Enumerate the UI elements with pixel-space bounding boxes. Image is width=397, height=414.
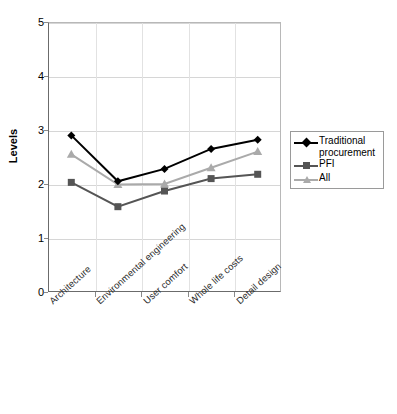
y-tick-label: 2 (22, 179, 44, 190)
data-point-marker (67, 150, 76, 158)
legend-label: Traditional procurement (318, 135, 381, 158)
legend-swatch (294, 136, 318, 149)
legend-item[interactable]: PFI (294, 158, 381, 172)
data-point-marker (161, 165, 169, 173)
y-tick-mark (44, 292, 48, 293)
data-point-marker (253, 147, 262, 155)
legend-diamond-icon (302, 138, 312, 148)
legend-item[interactable]: All (294, 172, 381, 186)
legend-label: All (318, 172, 330, 184)
series-line (71, 135, 257, 181)
line-chart: Levels 012345 ArchitectureEnvironmental … (0, 0, 397, 414)
y-tick-label: 3 (22, 125, 44, 136)
data-point-marker (254, 136, 262, 144)
legend-square-icon (303, 162, 310, 169)
y-tick-label: 4 (22, 71, 44, 82)
y-tick-label: 0 (22, 287, 44, 298)
y-axis-title: Levels (7, 116, 19, 176)
legend-swatch (294, 173, 318, 186)
data-point-marker (207, 145, 215, 153)
legend-triangle-icon (303, 176, 311, 183)
data-point-marker (68, 179, 75, 186)
data-point-marker (161, 188, 168, 195)
y-tick-label: 5 (22, 17, 44, 28)
legend: Traditional procurementPFIAll (290, 131, 384, 189)
data-point-marker (114, 203, 121, 210)
legend-label: PFI (318, 158, 335, 170)
legend-item[interactable]: Traditional procurement (294, 135, 381, 158)
series-layer (48, 22, 281, 292)
legend-swatch (294, 159, 318, 172)
data-point-marker (208, 175, 215, 182)
data-point-marker (254, 171, 261, 178)
y-tick-label: 1 (22, 233, 44, 244)
